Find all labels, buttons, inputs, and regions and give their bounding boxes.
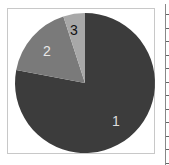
panel-tick	[166, 122, 169, 123]
panel-tick	[166, 14, 169, 15]
panel-tick	[166, 149, 169, 150]
pie-chart: 1 2 3	[0, 0, 169, 165]
panel-tick	[166, 68, 169, 69]
panel-tick	[166, 95, 169, 96]
slice-label-2: 2	[43, 43, 51, 59]
panel-tick	[166, 55, 169, 56]
panel-tick	[166, 163, 169, 164]
adjacent-panel-edge	[165, 4, 169, 165]
slice-label-3: 3	[70, 22, 78, 38]
panel-tick	[166, 41, 169, 42]
slice-label-1: 1	[112, 113, 120, 129]
panel-tick	[166, 28, 169, 29]
panel-tick	[166, 109, 169, 110]
panel-tick	[166, 136, 169, 137]
panel-tick	[166, 82, 169, 83]
